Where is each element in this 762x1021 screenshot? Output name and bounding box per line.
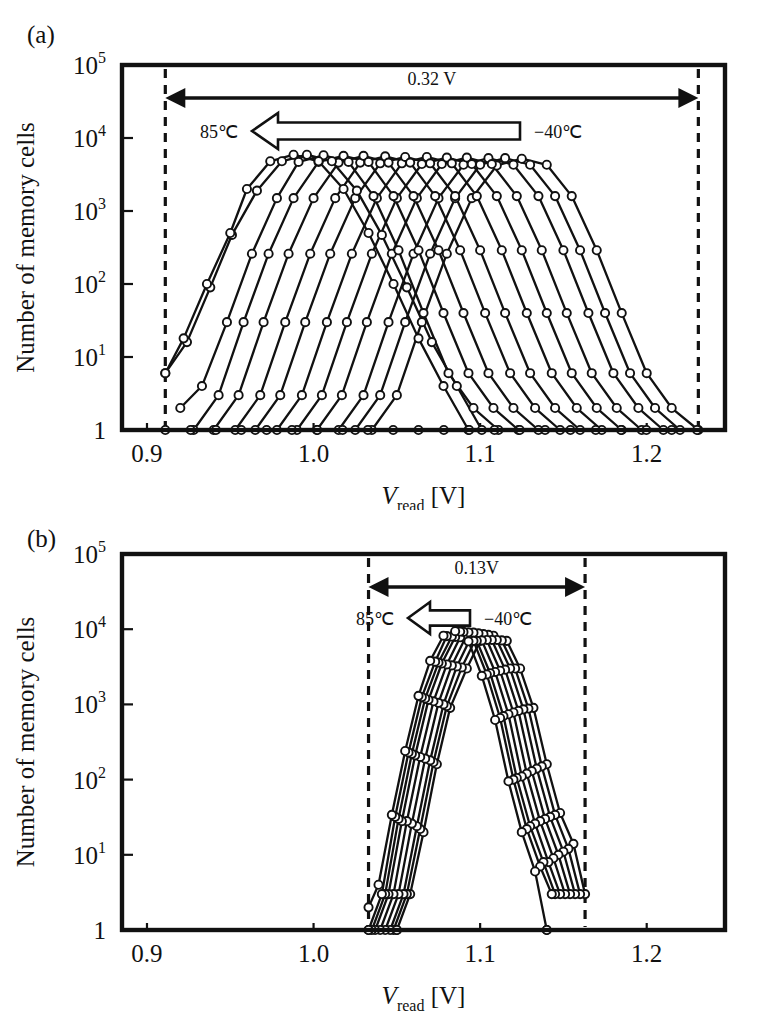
data-point-marker [439,309,447,317]
data-point-marker [543,309,551,317]
y-axis-tick-label: 105 [73,538,106,568]
data-point-marker [226,229,234,237]
data-point-marker [651,404,659,412]
panel-a: (a) 11011021031041050.91.01.11.2Vread [V… [0,0,762,510]
data-point-marker [235,391,243,399]
data-point-marker [384,318,392,326]
data-point-marker [568,192,576,200]
y-axis-tick-label: 104 [73,122,106,152]
data-point-marker [668,404,676,412]
span-arrow-head-left [165,88,185,108]
data-point-marker [618,309,626,317]
data-point-marker [518,246,526,254]
data-point-marker [464,369,472,377]
data-point-marker [328,157,336,165]
y-axis-title: Number of memory cells [12,617,39,868]
data-point-marker [456,246,464,254]
data-point-marker [531,404,539,412]
panel-b-letter: (b) [27,526,56,551]
data-point-marker [489,404,497,412]
data-point-marker [339,185,347,193]
data-point-marker [491,716,499,724]
data-point-marker [348,250,356,258]
y-axis-tick-label: 101 [73,341,106,371]
data-point-marker [215,391,223,399]
data-point-marker [568,369,576,377]
data-point-marker [281,318,289,326]
temperature-label-left: 85℃ [356,609,394,629]
data-point-marker [601,309,609,317]
data-point-marker [323,318,331,326]
data-point-marker [484,369,492,377]
data-point-marker [318,391,326,399]
data-point-marker [266,157,274,165]
data-point-marker [439,632,447,640]
y-axis-tick-label: 102 [73,268,106,298]
data-point-marker [451,627,459,635]
data-point-marker [504,777,512,785]
panel-b: (b) 11011021031041050.91.01.11.2Vread [V… [0,510,762,1021]
y-axis-tick-label: 105 [73,49,106,79]
data-point-marker [506,369,514,377]
span-arrow-head-right [678,88,698,108]
data-point-marker [273,194,281,202]
data-point-marker [593,246,601,254]
data-point-marker [426,657,434,665]
data-point-marker [613,404,621,412]
data-point-marker [401,747,409,755]
data-point-marker [448,159,456,167]
data-point-marker [243,185,251,193]
data-point-marker [418,318,426,326]
data-point-marker [459,309,467,317]
data-point-marker [343,318,351,326]
x-axis-tick-label: 1.0 [298,440,329,467]
data-point-marker [180,334,188,342]
x-axis-title: Vread [V] [382,482,466,510]
y-axis-title: Number of memory cells [12,122,39,373]
data-point-marker [426,159,434,167]
x-axis-tick-label: 1.1 [465,940,496,967]
data-point-marker [403,283,411,291]
data-point-marker [203,280,211,288]
data-point-marker [353,187,361,195]
data-point-marker [526,161,534,169]
data-point-marker [476,161,484,169]
data-point-marker [301,318,309,326]
data-point-marker [538,246,546,254]
data-point-marker [259,318,267,326]
span-value-label: 0.32 V [407,69,456,89]
temperature-label-left: 85℃ [200,122,238,142]
data-point-marker [428,338,436,346]
data-point-marker [443,250,451,258]
data-point-marker [389,280,397,288]
data-point-marker [588,369,596,377]
data-point-marker [363,318,371,326]
data-point-marker [509,404,517,412]
data-point-marker [426,250,434,258]
data-point-marker [501,309,509,317]
data-point-marker [531,867,539,875]
data-point-marker [389,192,397,200]
figure-container: (a) 11011021031041050.91.01.11.2Vread [V… [0,0,762,1021]
data-point-marker [369,192,377,200]
data-point-marker [481,309,489,317]
y-axis-tick-label: 103 [73,688,106,718]
data-point-marker [176,404,184,412]
data-point-marker [303,151,311,159]
data-point-marker [551,192,559,200]
data-point-marker [468,160,476,168]
data-point-marker [493,192,501,200]
panel-b-plot: 11011021031041050.91.01.11.2Vread [V]Num… [0,510,762,1021]
data-point-marker [543,161,551,169]
data-point-marker [306,250,314,258]
y-axis-tick-label: 102 [73,764,106,794]
data-point-marker [431,192,439,200]
x-axis-tick-label: 0.9 [131,440,162,467]
data-point-marker [548,369,556,377]
data-point-marker [414,692,422,700]
data-point-marker [364,229,372,237]
data-point-marker [256,391,264,399]
data-point-marker [444,369,452,377]
data-point-marker [498,246,506,254]
data-point-marker [434,246,442,254]
